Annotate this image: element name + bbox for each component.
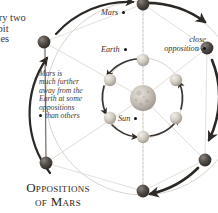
close-opposition-line-2: opposition (164, 44, 199, 53)
note-line-6: than others (45, 111, 80, 120)
left-caption-line-2: rbit (0, 24, 38, 35)
earth-label-dot (124, 48, 127, 51)
earth-label: Earth (101, 45, 127, 54)
left-caption: ery two rbit ries 7 s. (0, 13, 38, 66)
sun-label-text: Sun (118, 114, 130, 123)
mars-sphere (38, 36, 51, 49)
figure-title-line-1: Oppositions (2, 181, 114, 195)
left-caption-line-3: ries (0, 34, 38, 45)
explanatory-note: Mars is much further away from the Earth… (39, 70, 105, 120)
mars-sphere (40, 157, 53, 170)
note-bullet-dot (39, 114, 42, 117)
earth-sphere (170, 74, 182, 86)
left-caption-line-5: s. (0, 55, 38, 66)
mars-sphere (137, 0, 150, 10)
sun-sphere (130, 85, 156, 111)
mars-label-text: Mars (101, 8, 118, 17)
earth-sphere (104, 112, 116, 124)
left-caption-line-4: 7 (0, 45, 38, 56)
close-opposition-label: closeopposition (142, 36, 206, 54)
earth-sphere (170, 112, 182, 124)
close-opposition-line-1: close (189, 35, 206, 44)
left-caption-line-1: ery two (0, 13, 38, 24)
earth-sphere (104, 74, 116, 86)
sun-label-dot (134, 117, 137, 120)
earth-sphere (137, 131, 149, 143)
mars-label-dot (122, 11, 125, 14)
mars-oppositions-figure: ery two rbit ries 7 s. Mars is much furt… (0, 0, 218, 213)
close-opposition-label-dot (203, 47, 206, 50)
earth-sphere (137, 54, 149, 66)
mars-label: Mars (101, 8, 125, 17)
mars-sphere (199, 154, 212, 167)
note-line-6-row: than others (39, 112, 105, 120)
mars-sphere (137, 185, 150, 198)
earth-label-text: Earth (101, 45, 120, 54)
sun-label: Sun (118, 114, 137, 123)
figure-title: Oppositions of Mars (2, 181, 114, 209)
figure-title-line-2: of Mars (2, 195, 114, 209)
